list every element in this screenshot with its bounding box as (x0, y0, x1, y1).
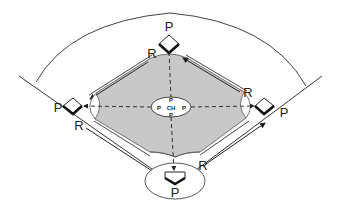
first-base (255, 98, 274, 114)
runner-label-home-1b: R (198, 158, 207, 173)
first-base-player-label: P (280, 105, 289, 120)
center-left-label: P (157, 105, 161, 111)
diagram-canvas: CH P P P P P P P P R R R R (0, 0, 337, 209)
center-right-label: P (182, 105, 186, 111)
runner-label-3b-home: R (74, 118, 83, 133)
center-label: CH (167, 105, 176, 111)
runner-label-2b-3b: R (147, 46, 156, 61)
second-base (159, 35, 179, 53)
center-top-label: P (169, 97, 173, 103)
center-bottom-label: P (169, 112, 173, 118)
runner-label-1b-2b: R (243, 85, 252, 100)
home-player-label: P (171, 185, 180, 200)
second-base-player-label: P (165, 19, 174, 34)
baseball-diagram: CH P P P P P P P P R R R R (0, 0, 337, 209)
third-base (63, 98, 82, 114)
third-base-player-label: P (54, 100, 63, 115)
